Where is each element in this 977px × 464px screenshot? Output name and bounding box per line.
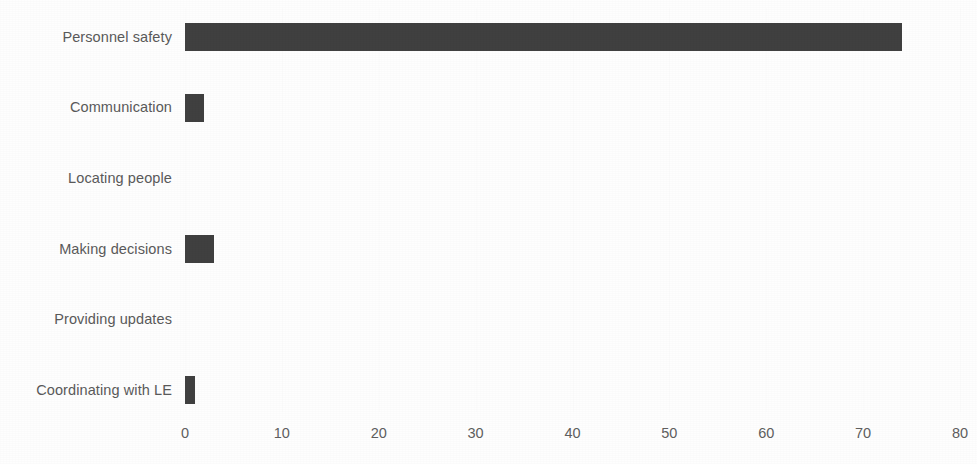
x-tick-label: 40 bbox=[564, 426, 580, 441]
x-tick-label: 0 bbox=[181, 426, 189, 441]
category-row: Personnel safety bbox=[0, 2, 977, 73]
bar bbox=[185, 23, 902, 51]
category-label: Locating people bbox=[0, 171, 172, 186]
category-label: Providing updates bbox=[0, 312, 172, 327]
category-row: Coordinating with LE bbox=[0, 355, 977, 426]
x-axis: 01020304050607080 bbox=[0, 426, 977, 456]
bar bbox=[185, 235, 214, 263]
x-tick-label: 50 bbox=[661, 426, 677, 441]
category-label: Making decisions bbox=[0, 242, 172, 257]
bar-chart: Personnel safetyCommunicationLocating pe… bbox=[0, 0, 977, 464]
x-tick-label: 10 bbox=[274, 426, 290, 441]
x-tick-label: 60 bbox=[758, 426, 774, 441]
category-label: Personnel safety bbox=[0, 30, 172, 45]
category-row: Communication bbox=[0, 72, 977, 143]
category-row: Making decisions bbox=[0, 214, 977, 285]
x-tick-label: 80 bbox=[952, 426, 968, 441]
bar bbox=[185, 376, 195, 404]
x-tick-label: 30 bbox=[468, 426, 484, 441]
plot-area: Personnel safetyCommunicationLocating pe… bbox=[0, 0, 977, 420]
category-row: Providing updates bbox=[0, 284, 977, 355]
x-tick-label: 20 bbox=[371, 426, 387, 441]
bar bbox=[185, 94, 204, 122]
category-row: Locating people bbox=[0, 143, 977, 214]
x-tick-label: 70 bbox=[855, 426, 871, 441]
category-label: Communication bbox=[0, 100, 172, 115]
category-label: Coordinating with LE bbox=[0, 383, 172, 398]
